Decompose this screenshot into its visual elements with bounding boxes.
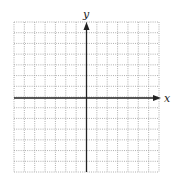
coordinate-plane <box>0 0 174 184</box>
x-axis-arrow-icon <box>153 95 161 101</box>
x-axis-label: x <box>164 93 170 104</box>
y-axis-label: y <box>83 9 89 20</box>
y-axis-arrow-icon <box>84 22 90 30</box>
